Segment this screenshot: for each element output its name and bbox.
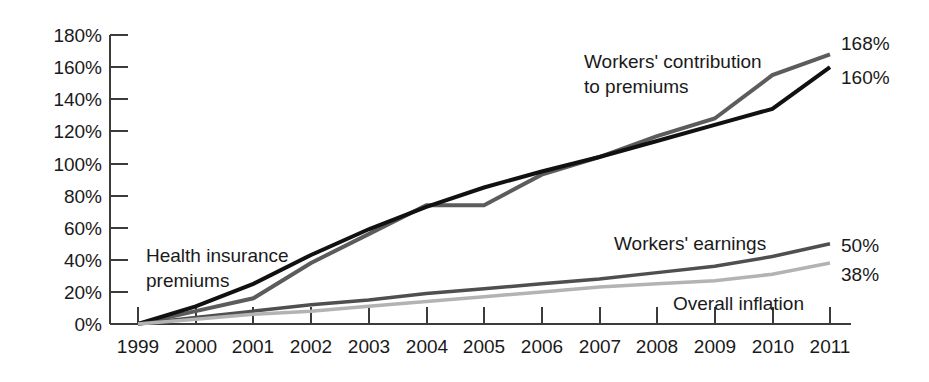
- y-tick-label-40: 40%: [64, 250, 102, 271]
- y-axis-ticks: [110, 35, 128, 292]
- x-tick-label-2003: 2003: [348, 336, 390, 357]
- x-tick-label-2001: 2001: [232, 336, 274, 357]
- annotation-health-insurance-line2: premiums: [146, 270, 229, 291]
- x-tick-label-2004: 2004: [406, 336, 449, 357]
- y-tick-label-20: 20%: [64, 282, 102, 303]
- y-tick-label-140: 140%: [53, 89, 102, 110]
- x-tick-label-2005: 2005: [463, 336, 505, 357]
- x-tick-label-2010: 2010: [752, 336, 794, 357]
- end-label-160: 160%: [841, 67, 890, 88]
- x-tick-label-2009: 2009: [694, 336, 736, 357]
- series-line-1: [138, 67, 830, 324]
- x-tick-label-2008: 2008: [636, 336, 678, 357]
- annotation-workers-contribution-line1: Workers' contribution: [584, 51, 762, 72]
- annotation-health-insurance-premiums: Health insurance premiums: [146, 245, 289, 291]
- annotation-overall-inflation-line1: Overall inflation: [673, 293, 804, 314]
- annotation-overall-inflation: Overall inflation: [673, 293, 804, 314]
- x-tick-label-2000: 2000: [175, 336, 217, 357]
- annotation-workers-contribution: Workers' contribution to premiums: [584, 51, 762, 97]
- x-tick-label-1999: 1999: [117, 336, 159, 357]
- y-tick-label-180: 180%: [53, 25, 102, 46]
- x-tick-label-2002: 2002: [290, 336, 332, 357]
- y-tick-label-80: 80%: [64, 186, 102, 207]
- x-tick-label-2011: 2011: [810, 336, 851, 357]
- x-tick-label-2007: 2007: [579, 336, 621, 357]
- annotation-health-insurance-line1: Health insurance: [146, 245, 289, 266]
- annotation-workers-earnings-line1: Workers' earnings: [614, 233, 766, 254]
- y-tick-label-0: 0%: [75, 314, 103, 335]
- end-label-38: 38%: [841, 264, 879, 285]
- end-label-50: 50%: [841, 235, 879, 256]
- chart-container: 180% 160% 140% 120% 100% 80% 60% 40% 20%…: [0, 0, 929, 382]
- series-layer: [138, 54, 830, 324]
- x-tick-label-2006: 2006: [521, 336, 563, 357]
- y-tick-label-160: 160%: [53, 57, 102, 78]
- y-tick-label-100: 100%: [53, 154, 102, 175]
- y-tick-label-60: 60%: [64, 218, 102, 239]
- end-label-168: 168%: [841, 33, 890, 54]
- annotation-workers-earnings: Workers' earnings: [614, 233, 766, 254]
- y-tick-label-120: 120%: [53, 121, 102, 142]
- line-chart: 180% 160% 140% 120% 100% 80% 60% 40% 20%…: [0, 0, 929, 382]
- annotation-workers-contribution-line2: to premiums: [584, 76, 689, 97]
